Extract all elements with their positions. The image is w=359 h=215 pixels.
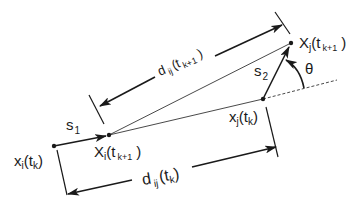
theta-arc [286, 60, 304, 88]
dashed-reference-line [263, 80, 337, 99]
label-s1: s1 [66, 116, 81, 136]
motion-diagram: s1 s2 θ Xj(tk+1 ) xj(tk) Xi(tk+1 ) xi(tk… [0, 0, 359, 215]
tick-bottom-left [57, 150, 67, 195]
label-s2: s2 [254, 62, 269, 82]
point-xj-tk [261, 97, 265, 101]
point-xi-tk [52, 144, 56, 148]
label-theta: θ [305, 60, 313, 77]
label-d-tk1: dij(tk+1 ) [155, 46, 206, 81]
dim-arrow-bottom-left [68, 180, 132, 194]
label-d-tk: dij(tk) [141, 165, 181, 191]
dim-arrow-top-left [100, 77, 155, 106]
label-xi-tk: xi(tk) [14, 152, 43, 171]
tick-top-left [89, 95, 104, 124]
label-Xi-tk1: Xi(tk+1 ) [94, 143, 141, 162]
dim-arrow-bottom-right [192, 147, 276, 167]
point-Xj-tk1 [289, 41, 293, 45]
label-xj-tk: xj(tk) [229, 108, 258, 127]
label-Xj-tk1: Xj(tk+1 ) [299, 34, 346, 53]
point-Xi-tk1 [107, 133, 111, 137]
dim-arrow-top-right [215, 25, 282, 56]
tick-top-right [275, 12, 290, 34]
